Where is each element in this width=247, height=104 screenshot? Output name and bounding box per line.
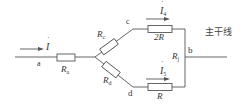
node-label-b: b — [188, 46, 193, 55]
circuit-wiring — [0, 0, 247, 104]
dot-accent: ˙ — [161, 1, 164, 9]
label-r-lower: R — [157, 92, 163, 101]
circuit-diagram: ˙I ˙I4 ˙I5 a b c d Ra Rc Rd 2R R Rj 主干线 — [0, 0, 247, 104]
label-rj: Rj — [172, 52, 179, 62]
current-subscript: 5 — [163, 71, 166, 77]
resistor-subscript: a — [67, 69, 70, 75]
label-main-trunk: 主干线 — [205, 28, 232, 37]
dot-accent: ˙ — [161, 61, 164, 69]
node-label-d: d — [128, 89, 133, 98]
resistor-subscript: j — [178, 56, 180, 62]
label-current-i5: ˙I5 — [160, 66, 166, 77]
arrowhead-main — [38, 47, 44, 51]
resistor-rc — [100, 39, 119, 55]
node-label-a: a — [37, 60, 41, 68]
current-subscript: 4 — [163, 11, 166, 17]
node-label-c: c — [126, 18, 130, 26]
arrowhead-i4 — [164, 17, 170, 21]
label-rc: Rc — [97, 30, 105, 40]
label-current-main: ˙I — [46, 42, 49, 52]
resistor-r — [148, 84, 172, 91]
label-current-i4: ˙I4 — [160, 6, 166, 17]
resistor-subscript: d — [109, 80, 112, 86]
label-r-upper: 2R — [154, 33, 164, 42]
dot-accent: ˙ — [47, 37, 50, 45]
resistor-ra — [57, 54, 75, 61]
resistor-subscript: c — [103, 34, 106, 40]
label-rd: Rd — [103, 76, 112, 86]
arrowhead-i5 — [164, 77, 170, 81]
label-ra: Ra — [61, 65, 69, 75]
